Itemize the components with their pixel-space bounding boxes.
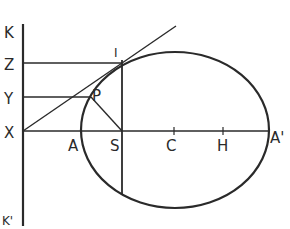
label-h: H	[217, 137, 228, 155]
label-a-prime: A'	[270, 129, 284, 147]
label-p: P	[92, 87, 101, 105]
label-k-prime: K'	[2, 214, 13, 228]
label-i: I	[114, 46, 118, 60]
label-y: Y	[3, 90, 14, 108]
ellipse-geometry-diagram: K Z Y X K' I P A S C H A'	[0, 0, 290, 229]
label-x: X	[4, 124, 14, 142]
label-s: S	[110, 137, 120, 155]
tangent-line	[23, 26, 176, 131]
label-z: Z	[4, 56, 14, 74]
label-c: C	[166, 137, 176, 155]
label-k: K	[4, 24, 15, 42]
ellipse	[81, 52, 269, 208]
label-a: A	[68, 137, 79, 155]
